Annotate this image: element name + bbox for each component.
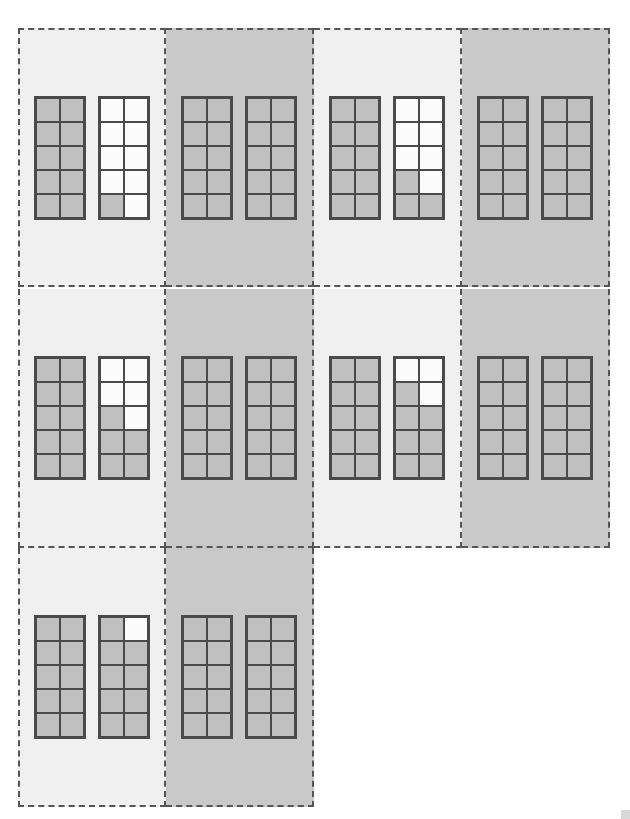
unit-cell-filled[interactable] bbox=[271, 617, 295, 641]
unit-cell-filled[interactable] bbox=[543, 382, 567, 406]
unit-cell-filled[interactable] bbox=[247, 98, 271, 122]
ten-frame-block[interactable] bbox=[34, 615, 86, 739]
ten-frame-block[interactable] bbox=[181, 356, 233, 480]
unit-cell-filled[interactable] bbox=[247, 194, 271, 218]
ten-frame-block[interactable] bbox=[181, 615, 233, 739]
unit-cell-filled[interactable] bbox=[479, 194, 503, 218]
unit-cell-filled[interactable] bbox=[331, 454, 355, 478]
unit-cell-filled[interactable] bbox=[479, 382, 503, 406]
unit-cell-filled[interactable] bbox=[503, 122, 527, 146]
unit-cell-empty[interactable] bbox=[124, 146, 148, 170]
unit-cell-filled[interactable] bbox=[36, 454, 60, 478]
unit-cell-filled[interactable] bbox=[207, 358, 231, 382]
unit-cell-filled[interactable] bbox=[331, 430, 355, 454]
unit-cell-filled[interactable] bbox=[247, 641, 271, 665]
unit-cell-filled[interactable] bbox=[36, 122, 60, 146]
unit-cell-filled[interactable] bbox=[183, 170, 207, 194]
panel-r1c1[interactable] bbox=[18, 28, 166, 287]
unit-cell-filled[interactable] bbox=[183, 98, 207, 122]
unit-cell-filled[interactable] bbox=[567, 382, 591, 406]
unit-cell-filled[interactable] bbox=[60, 146, 84, 170]
unit-cell-empty[interactable] bbox=[124, 358, 148, 382]
unit-cell-filled[interactable] bbox=[247, 146, 271, 170]
unit-cell-empty[interactable] bbox=[100, 98, 124, 122]
unit-cell-filled[interactable] bbox=[183, 689, 207, 713]
unit-cell-filled[interactable] bbox=[355, 146, 379, 170]
unit-cell-filled[interactable] bbox=[207, 382, 231, 406]
unit-cell-filled[interactable] bbox=[60, 98, 84, 122]
unit-cell-filled[interactable] bbox=[355, 122, 379, 146]
unit-cell-empty[interactable] bbox=[419, 122, 443, 146]
unit-cell-filled[interactable] bbox=[60, 665, 84, 689]
unit-cell-filled[interactable] bbox=[183, 617, 207, 641]
unit-cell-empty[interactable] bbox=[100, 358, 124, 382]
unit-cell-filled[interactable] bbox=[60, 358, 84, 382]
unit-cell-filled[interactable] bbox=[331, 146, 355, 170]
unit-cell-filled[interactable] bbox=[247, 358, 271, 382]
unit-cell-filled[interactable] bbox=[36, 713, 60, 737]
ten-frame-block[interactable] bbox=[245, 615, 297, 739]
unit-cell-filled[interactable] bbox=[479, 98, 503, 122]
unit-cell-filled[interactable] bbox=[183, 430, 207, 454]
unit-cell-filled[interactable] bbox=[60, 454, 84, 478]
unit-cell-filled[interactable] bbox=[271, 194, 295, 218]
unit-cell-filled[interactable] bbox=[36, 382, 60, 406]
unit-cell-filled[interactable] bbox=[183, 713, 207, 737]
ten-frame-block[interactable] bbox=[477, 96, 529, 220]
unit-cell-filled[interactable] bbox=[503, 146, 527, 170]
unit-cell-filled[interactable] bbox=[419, 454, 443, 478]
unit-cell-filled[interactable] bbox=[36, 170, 60, 194]
unit-cell-filled[interactable] bbox=[207, 454, 231, 478]
unit-cell-filled[interactable] bbox=[100, 454, 124, 478]
unit-cell-filled[interactable] bbox=[543, 358, 567, 382]
unit-cell-empty[interactable] bbox=[124, 617, 148, 641]
unit-cell-filled[interactable] bbox=[100, 713, 124, 737]
unit-cell-empty[interactable] bbox=[395, 146, 419, 170]
panel-r2c2[interactable] bbox=[166, 289, 314, 548]
unit-cell-filled[interactable] bbox=[503, 382, 527, 406]
unit-cell-filled[interactable] bbox=[543, 146, 567, 170]
unit-cell-empty[interactable] bbox=[100, 122, 124, 146]
unit-cell-filled[interactable] bbox=[207, 146, 231, 170]
unit-cell-filled[interactable] bbox=[124, 641, 148, 665]
panel-r2c4[interactable] bbox=[462, 289, 610, 548]
unit-cell-filled[interactable] bbox=[395, 194, 419, 218]
unit-cell-filled[interactable] bbox=[183, 665, 207, 689]
unit-cell-filled[interactable] bbox=[247, 665, 271, 689]
unit-cell-filled[interactable] bbox=[567, 122, 591, 146]
unit-cell-filled[interactable] bbox=[355, 454, 379, 478]
unit-cell-filled[interactable] bbox=[271, 146, 295, 170]
unit-cell-filled[interactable] bbox=[183, 406, 207, 430]
unit-cell-filled[interactable] bbox=[331, 406, 355, 430]
ten-frame-block[interactable] bbox=[393, 96, 445, 220]
unit-cell-filled[interactable] bbox=[355, 170, 379, 194]
unit-cell-filled[interactable] bbox=[247, 713, 271, 737]
unit-cell-filled[interactable] bbox=[395, 406, 419, 430]
unit-cell-filled[interactable] bbox=[60, 617, 84, 641]
unit-cell-filled[interactable] bbox=[479, 406, 503, 430]
unit-cell-filled[interactable] bbox=[207, 713, 231, 737]
unit-cell-filled[interactable] bbox=[331, 122, 355, 146]
unit-cell-filled[interactable] bbox=[419, 406, 443, 430]
unit-cell-filled[interactable] bbox=[271, 406, 295, 430]
unit-cell-filled[interactable] bbox=[183, 358, 207, 382]
unit-cell-filled[interactable] bbox=[183, 641, 207, 665]
unit-cell-filled[interactable] bbox=[567, 454, 591, 478]
unit-cell-filled[interactable] bbox=[395, 382, 419, 406]
unit-cell-filled[interactable] bbox=[271, 382, 295, 406]
panel-r1c4[interactable] bbox=[462, 28, 610, 287]
unit-cell-filled[interactable] bbox=[503, 358, 527, 382]
unit-cell-filled[interactable] bbox=[271, 713, 295, 737]
ten-frame-block[interactable] bbox=[98, 96, 150, 220]
ten-frame-block[interactable] bbox=[98, 356, 150, 480]
unit-cell-filled[interactable] bbox=[331, 170, 355, 194]
unit-cell-filled[interactable] bbox=[207, 194, 231, 218]
unit-cell-filled[interactable] bbox=[36, 194, 60, 218]
unit-cell-filled[interactable] bbox=[331, 382, 355, 406]
unit-cell-filled[interactable] bbox=[355, 430, 379, 454]
unit-cell-empty[interactable] bbox=[395, 358, 419, 382]
unit-cell-filled[interactable] bbox=[331, 98, 355, 122]
unit-cell-filled[interactable] bbox=[567, 194, 591, 218]
unit-cell-filled[interactable] bbox=[503, 406, 527, 430]
unit-cell-filled[interactable] bbox=[183, 454, 207, 478]
